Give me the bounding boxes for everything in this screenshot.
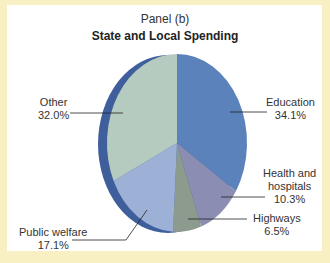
label-health-name-1: Health and	[263, 167, 316, 180]
label-education: Education 34.1%	[266, 96, 315, 122]
label-welfare-name: Public welfare	[19, 226, 87, 239]
label-welfare-value: 17.1%	[19, 239, 87, 252]
label-highways-name: Highways	[253, 212, 301, 225]
label-health: Health and hospitals 10.3%	[263, 167, 316, 206]
label-highways-value: 6.5%	[253, 225, 301, 238]
label-other: Other 32.0%	[38, 96, 69, 122]
label-health-value: 10.3%	[263, 193, 316, 206]
label-highways: Highways 6.5%	[253, 212, 301, 238]
label-education-name: Education	[266, 96, 315, 109]
label-health-name-2: hospitals	[263, 180, 316, 193]
label-welfare: Public welfare 17.1%	[19, 226, 87, 252]
pie-slices	[107, 54, 247, 232]
label-education-value: 34.1%	[266, 109, 315, 122]
label-other-name: Other	[38, 96, 69, 109]
label-other-value: 32.0%	[38, 109, 69, 122]
